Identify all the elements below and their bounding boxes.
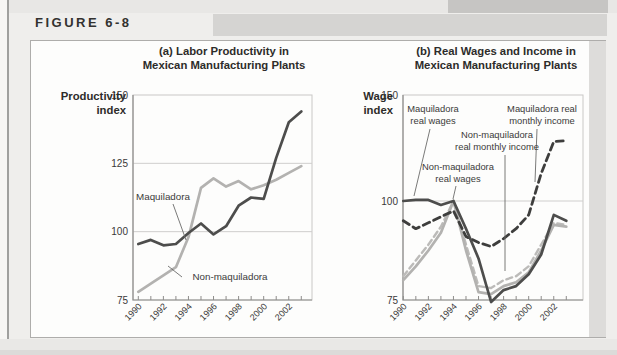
chart-b-yaxis-title-line2: index bbox=[350, 103, 393, 117]
chart-b-yaxis-title-line1: Wage bbox=[350, 89, 393, 103]
svg-text:100: 100 bbox=[111, 226, 128, 237]
chart-a-yaxis-title: Productivity index bbox=[58, 89, 126, 117]
svg-text:2002: 2002 bbox=[273, 301, 294, 322]
svg-text:2002: 2002 bbox=[538, 301, 559, 322]
svg-text:100: 100 bbox=[381, 196, 398, 207]
svg-text:1994: 1994 bbox=[173, 301, 194, 322]
annotation-label: monthly income bbox=[509, 115, 575, 126]
chart-b-title-line1: (b) Real Wages and Income in bbox=[408, 45, 584, 59]
annotation-label: Maquiladora bbox=[407, 103, 459, 114]
chart-b-title-line2: Mexican Manufacturing Plants bbox=[408, 59, 584, 73]
annotation-label: Non-maquiladora bbox=[461, 129, 534, 140]
svg-text:75: 75 bbox=[117, 295, 129, 306]
annotation-label: real wages bbox=[410, 115, 456, 126]
svg-text:2000: 2000 bbox=[513, 301, 534, 322]
svg-text:2000: 2000 bbox=[248, 301, 269, 322]
chart-a-title-line1: (a) Labor Productivity in bbox=[138, 45, 310, 59]
svg-text:1998: 1998 bbox=[223, 301, 244, 322]
svg-text:1992: 1992 bbox=[148, 301, 169, 322]
annotation-label: Maquiladora real bbox=[507, 103, 577, 114]
chart-a-yaxis-title-line2: index bbox=[58, 103, 126, 117]
chart-a-yaxis-title-line1: Productivity bbox=[58, 89, 126, 103]
svg-text:1998: 1998 bbox=[488, 301, 509, 322]
svg-text:125: 125 bbox=[111, 158, 128, 169]
svg-text:1996: 1996 bbox=[198, 301, 219, 322]
chart-b-title: (b) Real Wages and Income in Mexican Man… bbox=[408, 45, 584, 72]
svg-text:1992: 1992 bbox=[413, 301, 434, 322]
annotation-label: real wages bbox=[435, 173, 481, 184]
series-maquiladora-real-monthly-income bbox=[403, 141, 566, 247]
chart-a-title-line2: Mexican Manufacturing Plants bbox=[138, 59, 310, 73]
svg-text:1994: 1994 bbox=[438, 301, 459, 322]
annotation-label: real monthly income bbox=[455, 141, 539, 152]
annotation-label: Non-maquiladora bbox=[422, 161, 495, 172]
chart-b-yaxis-title: Wage index bbox=[350, 89, 393, 117]
svg-text:1996: 1996 bbox=[463, 301, 484, 322]
svg-text:75: 75 bbox=[387, 295, 399, 306]
annotation-label: Non-maquiladora bbox=[192, 271, 268, 282]
chart-a-title: (a) Labor Productivity in Mexican Manufa… bbox=[138, 45, 310, 72]
annotation-label: Maquiladora bbox=[136, 191, 190, 202]
scanned-figure-page: FIGURE 6-8 (a) Labor Productivity in Mex… bbox=[0, 0, 617, 355]
